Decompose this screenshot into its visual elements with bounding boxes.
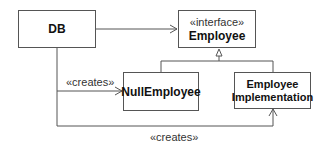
class-name: NullEmployee xyxy=(121,85,200,99)
stereotype-label: «interface» xyxy=(190,16,244,29)
class-name: DB xyxy=(48,22,65,36)
triangle-hollow-icon xyxy=(216,49,222,56)
class-name: Employee xyxy=(189,29,246,43)
class-null-employee: NullEmployee xyxy=(123,72,199,111)
class-employee-implementation: Employee Implementation xyxy=(234,72,311,109)
class-name-line2: Implementation xyxy=(232,91,313,104)
creates-label-impl: «creates» xyxy=(150,131,198,143)
creates-label-null: «creates» xyxy=(66,76,114,88)
class-employee: «interface» Employee xyxy=(178,10,256,48)
class-db: DB xyxy=(18,10,96,48)
class-name-line1: Employee xyxy=(247,78,299,91)
